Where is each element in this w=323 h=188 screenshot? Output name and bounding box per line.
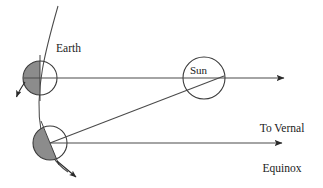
earth-rotation-arrow (17, 82, 26, 97)
sun-label: Sun (190, 64, 207, 77)
vernal-equinox-label-line2: Equinox (245, 162, 319, 175)
vernal-equinox-label-line1: To Vernal (245, 122, 319, 135)
earth-sun-line (50, 76, 224, 143)
orbital-diagram-canvas: Earth Sun To Vernal Equinox (0, 0, 323, 188)
earth-axis-arrow-lower (57, 161, 76, 177)
earth-lower-night-shade (22, 124, 58, 171)
vernal-equinox-label: To Vernal Equinox (245, 96, 319, 188)
earth-label: Earth (56, 42, 81, 55)
